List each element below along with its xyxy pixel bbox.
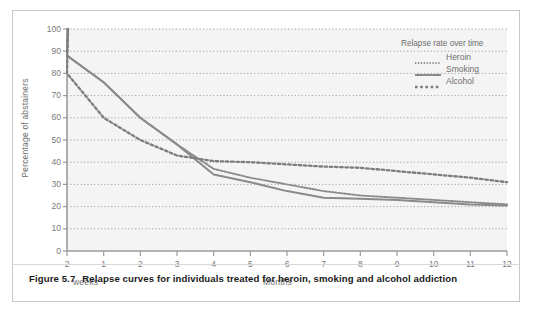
y-tick-label: 10 bbox=[33, 223, 61, 233]
y-tick-label: 30 bbox=[33, 179, 61, 189]
chart-plot-region: Percentage of abstainers Months weeks 01… bbox=[13, 11, 519, 264]
y-tick-label: 90 bbox=[33, 46, 61, 56]
y-tick-label: 80 bbox=[33, 68, 61, 78]
legend-swatch-alcohol-icon bbox=[415, 77, 441, 85]
legend-swatch-smoking-icon bbox=[415, 65, 441, 73]
legend-label: Heroin bbox=[446, 52, 471, 62]
figure-card: Percentage of abstainers Months weeks 01… bbox=[12, 10, 520, 302]
legend-item-heroin[interactable]: Heroin bbox=[401, 51, 519, 63]
legend-item-smoking[interactable]: Smoking bbox=[401, 63, 519, 75]
caption-divider bbox=[13, 264, 519, 265]
y-tick-label: 100 bbox=[33, 24, 61, 34]
figure-caption-text: Relapse curves for individuals treated f… bbox=[82, 273, 457, 284]
y-tick-label: 60 bbox=[33, 112, 61, 122]
y-tick-label: 0 bbox=[33, 246, 61, 256]
legend-label: Alcohol bbox=[446, 76, 474, 86]
y-axis-title: Percentage of abstainers bbox=[20, 68, 30, 188]
figure-caption: Figure 5.7Relapse curves for individuals… bbox=[29, 273, 457, 284]
y-tick-label: 40 bbox=[33, 157, 61, 167]
chart-legend: Relapse rate over time HeroinSmokingAlco… bbox=[401, 39, 519, 87]
legend-title: Relapse rate over time bbox=[401, 39, 519, 48]
y-tick-label: 70 bbox=[33, 90, 61, 100]
legend-label: Smoking bbox=[446, 64, 479, 74]
figure-number: Figure 5.7 bbox=[29, 273, 75, 284]
legend-rows: HeroinSmokingAlcohol bbox=[401, 51, 519, 87]
y-tick-label: 50 bbox=[33, 135, 61, 145]
y-tick-label: 20 bbox=[33, 201, 61, 211]
legend-item-alcohol[interactable]: Alcohol bbox=[401, 75, 519, 87]
legend-swatch-heroin-icon bbox=[415, 53, 441, 61]
